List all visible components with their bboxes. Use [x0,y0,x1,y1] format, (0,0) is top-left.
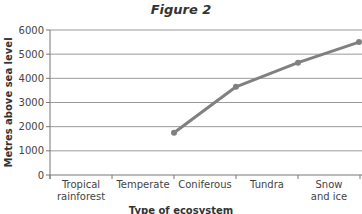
data-point [171,130,177,136]
y-tick-label: 6000 [19,25,44,36]
y-tick-label: 4000 [19,73,44,84]
y-tick-label: 3000 [19,97,44,108]
x-category-label: Tropical [61,179,100,190]
y-axis-title: Metres above sea level [3,37,14,167]
x-category-label: Snow [316,179,343,190]
x-category-label: Coniferous [178,179,231,190]
line-chart: 0100020003000400050006000Tropicalrainfor… [0,0,362,214]
x-category-label: Temperate [115,179,169,190]
x-axis-title: Type of ecosystem [129,205,233,214]
data-point [295,60,301,66]
y-tick-label: 1000 [19,145,44,156]
x-category-label: rainforest [57,191,105,202]
y-tick-label: 0 [38,170,44,181]
y-tick-label: 5000 [19,49,44,60]
series-line [174,42,359,133]
x-category-label: and ice [311,191,347,202]
x-category-label: Tundra [249,179,284,190]
data-point [356,39,362,45]
y-tick-label: 2000 [19,121,44,132]
data-point [233,84,239,90]
